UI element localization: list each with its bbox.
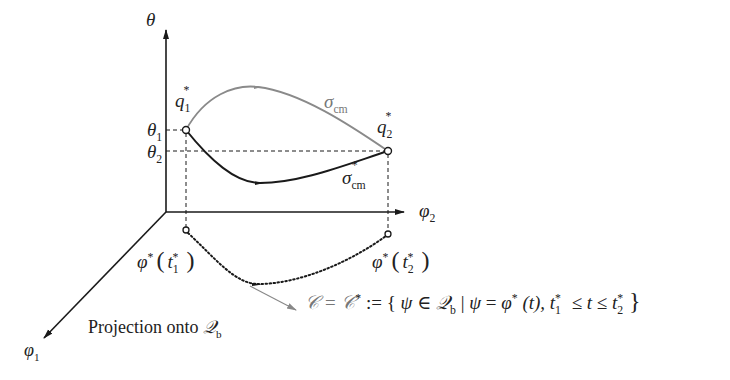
projected-curve-C: [188, 233, 386, 284]
sigma-cm-star-label: σcm*: [342, 168, 372, 187]
phi-star-t2-label: φ*(t2*): [372, 248, 431, 272]
sigma-cm-label: σcm: [324, 92, 348, 111]
theta-axis-label: θ: [146, 10, 155, 29]
phi-star-t1-label: φ*(t1*): [137, 248, 196, 272]
phi2-axis-label: φ2: [419, 201, 435, 220]
q2-star-label: q2*: [377, 117, 398, 136]
pointer-line: [250, 286, 296, 310]
projection-caption: Projection onto 𝒬b: [88, 318, 222, 336]
point-q1-star: [183, 127, 190, 134]
q1-star-label: q1*: [175, 91, 196, 110]
point-q2-star: [385, 148, 392, 155]
upper-trajectory-sigma-cm: [186, 87, 388, 151]
projection-point-2: [385, 231, 391, 237]
theta1-label: θ1: [147, 120, 162, 139]
theta2-label: θ2: [147, 142, 162, 161]
set-definition: 𝒞 = 𝒞* := { ψ ∈ 𝒬b | ψ = φ* (t), t1* ≤ t…: [305, 289, 641, 313]
phi1-axis-label: φ1: [24, 341, 40, 359]
